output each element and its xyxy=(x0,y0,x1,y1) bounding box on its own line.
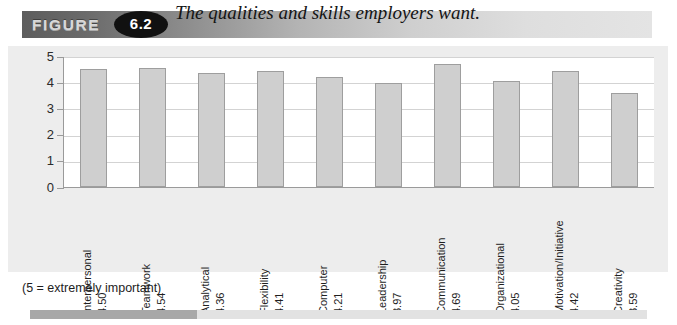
figure-number: 6.2 xyxy=(114,15,168,32)
footnote: (5 = extremely important) xyxy=(22,281,161,295)
bar xyxy=(316,77,343,187)
y-tick: 2 xyxy=(8,135,54,136)
y-tick-mark xyxy=(57,109,64,110)
x-category-value: 4.54 xyxy=(153,194,169,314)
x-category-value: 3.59 xyxy=(625,194,641,314)
bottom-progress-fill xyxy=(30,310,197,319)
plot-area xyxy=(64,57,654,188)
gridline xyxy=(64,57,654,58)
x-category-label: Interpersonal xyxy=(79,194,95,314)
y-tick-label: 1 xyxy=(12,153,54,168)
bottom-progress-bar xyxy=(30,310,647,319)
x-category-label: Communication xyxy=(433,194,449,314)
y-tick-mark xyxy=(57,161,64,162)
y-tick-mark xyxy=(57,57,64,58)
y-tick-mark xyxy=(57,83,64,84)
y-tick-label: 3 xyxy=(12,101,54,116)
x-category-label: Analytical xyxy=(197,194,213,314)
x-category-value: 4.69 xyxy=(448,194,464,314)
bar xyxy=(434,64,461,187)
x-category-value: 4.42 xyxy=(566,194,582,314)
x-category-label: Organizational xyxy=(492,194,508,314)
bar xyxy=(611,93,638,187)
x-axis-baseline xyxy=(64,187,654,188)
y-tick-label: 4 xyxy=(12,75,54,90)
x-category-label: Leadership xyxy=(374,194,390,314)
x-category-value: 4.21 xyxy=(330,194,346,314)
bar xyxy=(139,68,166,187)
y-tick-mark xyxy=(57,135,64,136)
x-category-value: 4.41 xyxy=(271,194,287,314)
x-category-value: 4.05 xyxy=(507,194,523,314)
figure-page: FIGURE 6.2 The qualities and skills empl… xyxy=(0,0,677,325)
y-tick-label: 2 xyxy=(12,127,54,142)
y-tick: 3 xyxy=(8,109,54,110)
bar xyxy=(198,73,225,187)
y-tick-label: 5 xyxy=(12,49,54,64)
y-tick-mark xyxy=(57,188,64,189)
x-category-label: Computer xyxy=(315,194,331,314)
bar xyxy=(493,81,520,187)
y-tick-label: 0 xyxy=(12,180,54,195)
chart-panel: 012345 Interpersonal4.50Teamwork4.54Anal… xyxy=(8,46,668,272)
y-tick: 0 xyxy=(8,188,54,189)
x-category-label: Motivation/Initiative xyxy=(551,194,567,314)
y-tick: 5 xyxy=(8,57,54,58)
x-category-value: 4.36 xyxy=(212,194,228,314)
x-category-value: 3.97 xyxy=(389,194,405,314)
figure-number-badge: 6.2 xyxy=(114,11,168,38)
x-category-label: Flexibility xyxy=(256,194,272,314)
bar xyxy=(375,83,402,187)
bar xyxy=(257,71,284,187)
figure-title: The qualities and skills employers want. xyxy=(175,2,480,24)
x-category-label: Creativity xyxy=(610,194,626,314)
bar xyxy=(552,71,579,187)
y-tick: 1 xyxy=(8,161,54,162)
x-category-value: 4.50 xyxy=(94,194,110,314)
y-tick: 4 xyxy=(8,83,54,84)
figure-label: FIGURE xyxy=(32,16,100,34)
bar xyxy=(80,69,107,187)
x-category-label: Teamwork xyxy=(138,194,154,314)
